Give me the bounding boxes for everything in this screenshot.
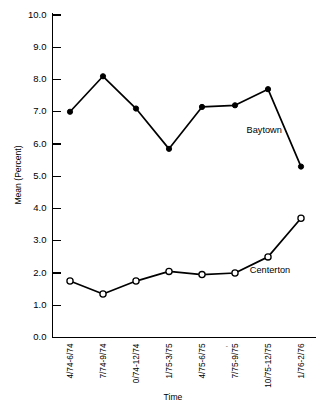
- y-tick-labels: 0.01.02.03.04.05.06.07.08.09.010.0: [28, 9, 47, 343]
- y-tick-label: 7.0: [33, 105, 46, 116]
- x-tick-label: 1/75-3/75: [164, 343, 174, 378]
- series-annotation-centerton: Centerton: [250, 265, 290, 275]
- data-point-baytown: [100, 74, 105, 79]
- series-annotations: BaytownCenterton: [247, 125, 291, 275]
- data-point-baytown: [265, 87, 270, 92]
- x-tick-label: 1/76-2/76: [296, 343, 306, 378]
- x-tick-label: 10/75-12/75: [263, 343, 273, 388]
- y-tick-label: 5.0: [33, 170, 46, 181]
- y-tick-label: 8.0: [33, 73, 46, 84]
- series-annotation-baytown: Baytown: [247, 125, 282, 135]
- data-point-centerton: [298, 215, 304, 221]
- y-tick-label: 0.0: [33, 331, 46, 342]
- x-tick-label: 4/75-6/75: [197, 343, 207, 378]
- x-tick-labels: 4/74-6/747/74-9/740/74-12/741/75-3/754/7…: [65, 343, 306, 388]
- data-point-baytown: [133, 106, 138, 111]
- data-point-centerton: [166, 268, 172, 274]
- y-tick-label: 1.0: [33, 299, 46, 310]
- data-point-centerton: [100, 291, 106, 297]
- data-point-baytown: [232, 103, 237, 108]
- y-tick-label: 10.0: [28, 9, 47, 20]
- data-point-baytown: [67, 109, 72, 114]
- data-point-centerton: [67, 278, 73, 284]
- y-axis-title: Mean (Percent): [13, 145, 23, 204]
- x-tick-label: 4/74-6/74: [65, 343, 75, 378]
- line-chart: 0.01.02.03.04.05.06.07.08.09.010.0 4/74-…: [0, 0, 324, 418]
- series-markers: [67, 74, 304, 297]
- data-point-centerton: [265, 254, 271, 260]
- y-tick-label: 3.0: [33, 234, 46, 245]
- y-tick-marks: [53, 15, 61, 338]
- data-point-baytown: [199, 104, 204, 109]
- y-tick-label: 2.0: [33, 267, 46, 278]
- y-tick-label: 6.0: [33, 138, 46, 149]
- figure-container: 0.01.02.03.04.05.06.07.08.09.010.0 4/74-…: [0, 0, 324, 418]
- data-point-baytown: [298, 164, 303, 169]
- data-point-centerton: [199, 272, 205, 278]
- x-tick-label: 7/74-9/74: [98, 343, 108, 378]
- x-tick-label: 0/74-12/74: [131, 343, 141, 383]
- series-lines: [70, 76, 301, 294]
- data-point-centerton: [232, 270, 238, 276]
- y-tick-label: 9.0: [33, 41, 46, 52]
- data-point-centerton: [133, 278, 139, 284]
- x-axis-title: Time: [164, 392, 183, 402]
- data-point-baytown: [166, 146, 171, 151]
- y-tick-label: 4.0: [33, 202, 46, 213]
